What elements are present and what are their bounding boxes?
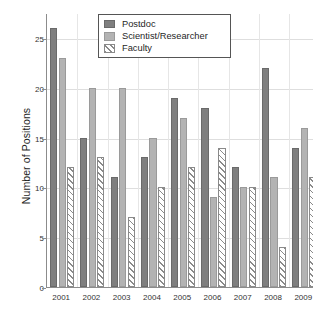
y-axis-tick-label: 0 [18,284,44,293]
legend-item-faculty: Faculty [104,43,226,55]
legend-swatch-postdoc-icon [104,20,115,29]
bar-faculty-2001 [67,167,74,287]
bar-faculty-2009 [309,177,313,287]
y-axis-tick-label: 15 [18,134,44,143]
gridline-vertical [289,14,290,287]
legend-swatch-faculty-icon [104,44,115,53]
bar-faculty-2003 [128,217,135,287]
x-axis-tick-label: 2005 [173,293,191,302]
bar-scientist-2009 [301,128,308,287]
bar-postdoc-2008 [262,68,269,287]
legend-label-postdoc: Postdoc [122,20,156,29]
y-axis-tick-mark [42,39,46,40]
bar-scientist-2008 [270,177,277,287]
y-axis-tick-label: 20 [18,84,44,93]
legend-label-scientist: Scientist/Researcher [122,32,208,41]
bar-faculty-2006 [218,148,225,287]
y-axis-tick-label: 5 [18,234,44,243]
bar-scientist-2002 [89,88,96,287]
legend-item-scientist: Scientist/Researcher [104,30,226,42]
bar-postdoc-2001 [50,28,57,287]
bar-faculty-2004 [158,187,165,287]
legend-label-faculty: Faculty [122,44,152,53]
y-axis-tick-mark [42,89,46,90]
y-axis-tick-mark [42,139,46,140]
gridline-vertical [77,14,78,287]
bar-postdoc-2006 [201,108,208,287]
x-axis-tick-label: 2004 [143,293,161,302]
x-axis-tick-label: 2008 [264,293,282,302]
bar-faculty-2008 [279,247,286,287]
bar-faculty-2005 [188,167,195,287]
y-axis-title: Number of Positions [20,76,32,236]
bar-postdoc-2003 [111,177,118,287]
bar-scientist-2006 [210,197,217,287]
bar-scientist-2005 [180,118,187,287]
bar-postdoc-2004 [141,157,148,287]
chart-legend: Postdoc Scientist/Researcher Faculty [98,14,231,58]
bar-faculty-2002 [97,157,104,287]
x-axis-tick-label: 2001 [52,293,70,302]
x-axis-tick-label: 2007 [234,293,252,302]
legend-swatch-scientist-icon [104,32,115,41]
bar-postdoc-2002 [80,138,87,287]
y-axis-tick-label: 25 [18,34,44,43]
bar-postdoc-2007 [232,167,239,287]
y-axis-tick-mark [42,238,46,239]
bar-postdoc-2005 [171,98,178,287]
x-axis-tick-label: 2002 [83,293,101,302]
y-axis-tick-mark [42,288,46,289]
y-axis-tick-mark [42,188,46,189]
bar-scientist-2003 [119,88,126,287]
bar-scientist-2001 [59,58,66,287]
y-axis-tick-label: 10 [18,184,44,193]
bar-scientist-2004 [149,138,156,287]
bar-postdoc-2009 [292,148,299,287]
bar-scientist-2007 [240,187,247,287]
gridline-horizontal [47,89,313,90]
legend-item-postdoc: Postdoc [104,18,226,30]
gridline-vertical [259,14,260,287]
x-axis-tick-label: 2003 [113,293,131,302]
bar-chart: Number of Positions 05101520252001200220… [0,0,313,320]
bar-faculty-2007 [249,187,256,287]
x-axis-tick-label: 2009 [294,293,312,302]
x-axis-tick-label: 2006 [204,293,222,302]
